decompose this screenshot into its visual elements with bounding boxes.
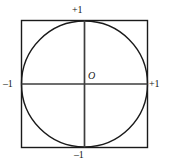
- x-min-label: –1: [3, 79, 13, 89]
- y-min-label: –1: [74, 150, 84, 160]
- x-max-label: +1: [149, 79, 159, 89]
- unit-circle-diagram: [0, 0, 169, 167]
- y-max-label: +1: [72, 5, 82, 15]
- figure-canvas: +1 –1 +1 –1 O: [0, 0, 169, 167]
- origin-label: O: [88, 71, 95, 81]
